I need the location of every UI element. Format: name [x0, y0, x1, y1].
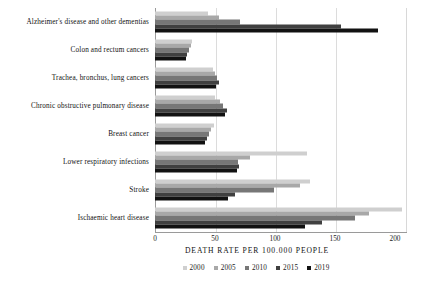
bars-container [155, 151, 407, 174]
legend-label: 2010 [252, 264, 267, 272]
legend-swatch-icon [214, 266, 218, 270]
legend-label: 2019 [314, 264, 329, 272]
x-tick-label: 0 [153, 234, 157, 243]
category-label: Lower respiratory infections [63, 158, 149, 166]
bar-rows: Alzheimer's disease and other dementiasC… [155, 8, 407, 232]
category-label: Ischaemic heart disease [78, 214, 149, 222]
category-label: Stroke [129, 186, 149, 194]
bar-group: Stroke [155, 176, 407, 204]
bar-group: Alzheimer's disease and other dementias [155, 8, 407, 36]
legend-item[interactable]: 2010 [245, 264, 267, 272]
legend-swatch-icon [183, 266, 187, 270]
bar-group: Colon and rectum cancers [155, 36, 407, 64]
bar [155, 56, 186, 60]
bar [155, 84, 216, 88]
bar [155, 28, 378, 32]
x-axis-title-text: DEATH RATE PER 100.000 PEOPLE [115, 246, 329, 255]
x-tick-label: 150 [330, 234, 341, 243]
bar-group: Chronic obstructive pulmonary disease [155, 92, 407, 120]
x-tick-label: 50 [211, 234, 218, 243]
legend-swatch-icon [307, 266, 311, 270]
bar-group: Ischaemic heart disease [155, 204, 407, 232]
category-label: Colon and rectum cancers [71, 46, 149, 54]
bars-container [155, 123, 407, 146]
bar-group: Lower respiratory infections [155, 148, 407, 176]
category-label: Trachea, bronchus, lung cancers [52, 74, 149, 82]
bar-group: Breast cancer [155, 120, 407, 148]
bars-container [155, 67, 407, 90]
bars-container [155, 179, 407, 202]
legend-label: 2000 [190, 264, 205, 272]
legend-label: 2015 [283, 264, 298, 272]
bar [155, 196, 228, 200]
x-axis-line [155, 232, 407, 233]
bar-chart: Alzheimer's disease and other dementiasC… [0, 0, 444, 293]
bar-group: Trachea, bronchus, lung cancers [155, 64, 407, 92]
bars-container [155, 207, 407, 230]
bars-container [155, 11, 407, 34]
category-label: Chronic obstructive pulmonary disease [31, 102, 149, 110]
category-label: Breast cancer [108, 130, 149, 138]
bars-container [155, 39, 407, 62]
legend-label: 2005 [221, 264, 236, 272]
legend-item[interactable]: 2019 [307, 264, 329, 272]
legend-item[interactable]: 2015 [276, 264, 298, 272]
legend-swatch-icon [245, 266, 249, 270]
legend-item[interactable]: 2005 [214, 264, 236, 272]
bar [155, 112, 225, 116]
bar [155, 168, 237, 172]
bar [155, 224, 305, 228]
legend-item[interactable]: 2000 [183, 264, 205, 272]
bars-container [155, 95, 407, 118]
chart-legend: 20002005201020152019 [0, 264, 444, 272]
x-tick-label: 100 [270, 234, 281, 243]
x-axis-title: DEATH RATE PER 100.000 PEOPLE [0, 246, 444, 255]
bar [155, 140, 205, 144]
category-label: Alzheimer's disease and other dementias [26, 18, 149, 26]
x-tick-label: 200 [390, 234, 401, 243]
legend-swatch-icon [276, 266, 280, 270]
